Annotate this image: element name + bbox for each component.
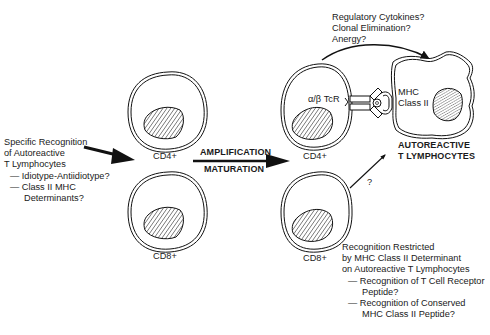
mhc-label-line: Class II — [398, 98, 429, 109]
nucleus — [292, 209, 332, 241]
bottom-annotation: Recognition Restricted by MHC Class II D… — [342, 242, 485, 320]
annotation-line: Anergy? — [332, 34, 424, 45]
tcr-label: α/β TcR — [308, 94, 340, 104]
nucleus — [292, 107, 332, 139]
cd4-label-amplified: CD4+ — [303, 151, 327, 161]
annotation-line: T Lymphocytes — [4, 159, 110, 170]
autoreactive-title: AUTOREACTIVE T LYMPHOCYTES — [398, 140, 475, 162]
mhc-label-line: MHC — [398, 87, 429, 98]
cd8-cell-amplified — [281, 172, 352, 252]
annotation-line: — Recognition of T Cell Receptor — [342, 276, 485, 287]
annotation-line: by MHC Class II Determinant — [342, 253, 485, 264]
annotation-line: — Idiotype-Antiidiotype? — [4, 171, 110, 182]
top-annotation: Regulatory Cytokines? Clonal Elimination… — [332, 12, 424, 46]
annotation-line: — Class II MHC — [4, 182, 110, 193]
cd4-cell-amplified — [281, 64, 352, 150]
annotation-line: Clonal Elimination? — [332, 23, 424, 34]
annotation-line: — Recognition of Conserved — [342, 298, 485, 309]
annotation-line: Recognition Restricted — [342, 242, 485, 253]
cd8-cell-initial — [128, 172, 207, 252]
nucleus — [144, 107, 183, 138]
cd8-label-initial: CD8+ — [153, 251, 177, 261]
unknown-pathway-label: ? — [367, 177, 372, 187]
annotation-line: Specific Recognition — [4, 137, 110, 148]
annotation-line: MHC Class II Peptide? — [342, 309, 485, 320]
cd4-cell-initial — [128, 72, 207, 152]
annotation-line: on Autoreactive T Lymphocytes — [342, 264, 485, 275]
annotation-line: Determinants? — [4, 193, 110, 204]
title-line: AUTOREACTIVE — [398, 140, 475, 151]
cd4-label-initial: CD4+ — [153, 151, 177, 161]
nucleus — [144, 207, 183, 238]
title-line: T LYMPHOCYTES — [398, 151, 475, 162]
annotation-line: of Autoreactive — [4, 148, 110, 159]
peptide-icon — [373, 99, 381, 107]
maturation-label: MATURATION — [204, 164, 264, 175]
regulation-curved-arrow — [322, 45, 428, 60]
left-annotation: Specific Recognition of Autoreactive T L… — [4, 137, 110, 204]
annotation-line: Regulatory Cytokines? — [332, 12, 424, 23]
annotation-line: Peptide? — [342, 287, 485, 298]
nucleus — [433, 88, 462, 120]
cd8-label-amplified: CD8+ — [303, 253, 327, 263]
mhc-label: MHC Class II — [398, 87, 429, 109]
amplification-label: AMPLIFICATION — [200, 147, 271, 158]
